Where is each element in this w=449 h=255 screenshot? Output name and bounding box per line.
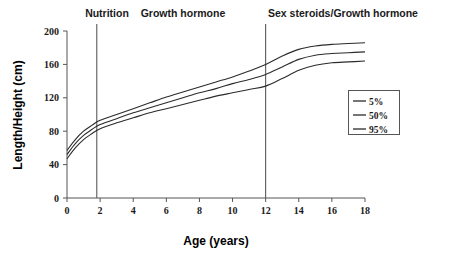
phase-dividers [97, 24, 266, 198]
x-tick-label: 12 [261, 205, 271, 216]
y-tick-label: 160 [44, 59, 59, 70]
x-tick-group: 024681012141618 [65, 198, 371, 216]
x-tick-label: 0 [65, 205, 70, 216]
percentile-curves [67, 43, 365, 159]
x-tick-label: 18 [360, 205, 370, 216]
growth-chart-figure: Nutrition Growth hormone Sex steroids/Gr… [0, 0, 449, 255]
x-tick-label: 2 [98, 205, 103, 216]
phase-label-nutrition: Nutrition [85, 7, 129, 19]
y-tick-label: 0 [54, 193, 59, 204]
y-tick-label: 200 [44, 26, 59, 37]
x-axis: 024681012141618 [65, 198, 371, 216]
legend-label-95-percent: 95% [369, 125, 388, 135]
phase-annotations: Nutrition Growth hormone Sex steroids/Gr… [85, 7, 418, 19]
curve-50-percentile [67, 52, 365, 155]
phase-label-growth-hormone: Growth hormone [141, 7, 226, 19]
y-tick-group: 04080120160200 [44, 26, 67, 204]
x-tick-label: 10 [228, 205, 238, 216]
legend-label-5-percent: 5% [369, 97, 383, 107]
x-tick-label: 8 [197, 205, 202, 216]
chart-canvas: Nutrition Growth hormone Sex steroids/Gr… [0, 0, 449, 255]
phase-label-sex-steroids-growth-hormone: Sex steroids/Growth hormone [268, 7, 418, 19]
x-tick-label: 14 [294, 205, 304, 216]
x-axis-title: Age (years) [183, 234, 248, 248]
legend: 5% 50% 95% [349, 91, 400, 136]
y-axis: 04080120160200 [44, 26, 67, 204]
curve-5-percentile [67, 61, 365, 159]
x-tick-label: 4 [131, 205, 136, 216]
x-tick-label: 6 [164, 205, 169, 216]
legend-label-50-percent: 50% [369, 111, 388, 121]
y-tick-label: 40 [49, 159, 59, 170]
x-tick-label: 16 [327, 205, 337, 216]
y-tick-label: 120 [44, 92, 59, 103]
y-tick-label: 80 [49, 126, 59, 137]
y-axis-title: Length/Height (cm) [11, 60, 25, 169]
